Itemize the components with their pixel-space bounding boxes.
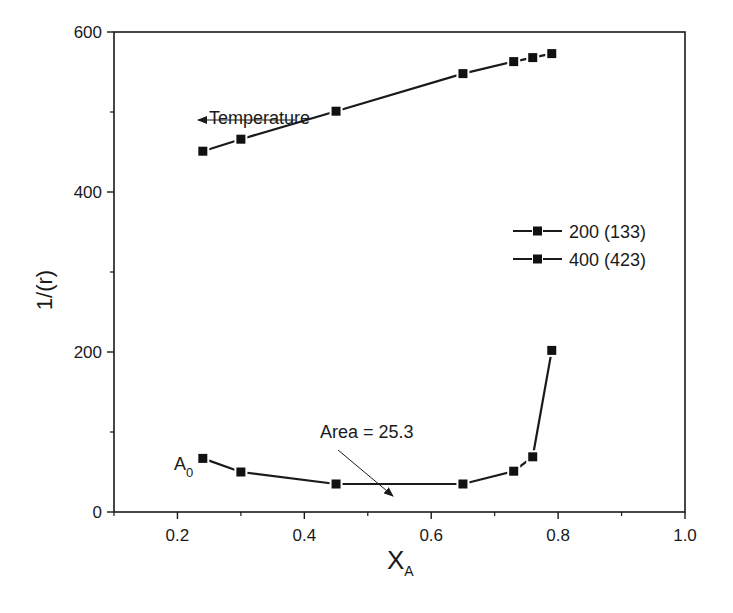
- square-marker: [528, 452, 537, 461]
- x-axis-label: XA: [387, 545, 414, 579]
- series-0: [196, 47, 558, 158]
- y-tick-label: 600: [74, 23, 102, 42]
- legend-item-1: 400 (423): [513, 250, 646, 270]
- legend-square-marker-icon: [533, 255, 542, 264]
- series-1: [196, 344, 558, 491]
- a0-annotation: A0: [174, 454, 193, 480]
- x-tick-label: 0.2: [166, 526, 190, 545]
- x-tick-label: 1.0: [673, 526, 697, 545]
- square-marker: [332, 107, 341, 116]
- series-line: [203, 54, 552, 152]
- square-marker: [236, 468, 245, 477]
- y-axis-label: 1/(r): [32, 270, 57, 310]
- legend: 200 (133)400 (423): [513, 222, 646, 270]
- y-tick-label: 400: [74, 183, 102, 202]
- area-annotation: Area = 25.3: [320, 422, 414, 442]
- x-tick-label: 0.6: [419, 526, 443, 545]
- square-marker: [332, 480, 341, 489]
- axis-ticks: 0.20.40.60.81.00200400600: [74, 23, 697, 545]
- area-arrow-icon: [338, 450, 393, 496]
- temperature-annotation: Temperature: [209, 108, 310, 128]
- legend-item-0: 200 (133): [513, 222, 646, 242]
- square-marker: [458, 480, 467, 489]
- series-line: [203, 350, 552, 484]
- chart: 0.20.40.60.81.00200400600 TemperatureAre…: [0, 0, 733, 613]
- square-marker: [458, 69, 467, 78]
- y-tick-label: 0: [93, 503, 102, 522]
- square-marker: [547, 346, 556, 355]
- square-marker: [528, 53, 537, 62]
- square-marker: [236, 135, 245, 144]
- square-marker: [509, 467, 518, 476]
- y-tick-label: 200: [74, 343, 102, 362]
- legend-label: 200 (133): [569, 222, 646, 242]
- legend-label: 400 (423): [569, 250, 646, 270]
- annotations: TemperatureArea = 25.3A0: [174, 108, 414, 496]
- legend-square-marker-icon: [533, 227, 542, 236]
- square-marker: [198, 454, 207, 463]
- square-marker: [547, 49, 556, 58]
- x-tick-label: 0.4: [293, 526, 317, 545]
- square-marker: [198, 147, 207, 156]
- square-marker: [509, 57, 518, 66]
- x-tick-label: 0.8: [546, 526, 570, 545]
